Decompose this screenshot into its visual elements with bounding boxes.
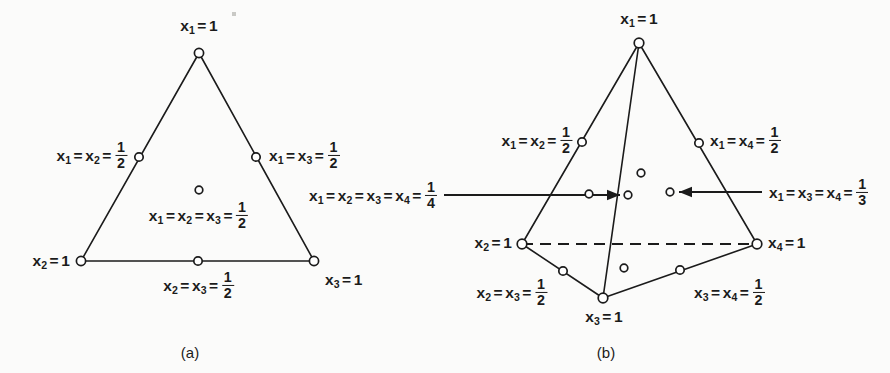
label-x3-eq-1: x3=1: [585, 309, 622, 327]
label-x2-x3-half: x2=x3=12: [163, 270, 235, 300]
interior-face-left: [585, 190, 593, 198]
label-x1-x2-half: x1=x2=12: [56, 140, 128, 170]
label-x2-x3-half: x2=x3=12: [476, 277, 548, 307]
scan-speck: [232, 12, 236, 16]
panel-a-caption: (a): [181, 344, 199, 361]
scan-artifacts: [232, 12, 236, 16]
interior-face-right: [666, 188, 674, 196]
interior-face-lower: [620, 264, 628, 272]
label-centroid-half: x1=x2=x3=12: [149, 200, 249, 230]
midpoint-x2x3: [194, 257, 202, 265]
label-x4-eq-1: x4=1: [768, 235, 805, 253]
label-x1-x2-half: x1=x2=12: [501, 125, 573, 155]
midpoint-x3x4: [676, 266, 684, 274]
midpoint-x1x4: [695, 139, 703, 147]
arrow-to-face-right-head: [679, 187, 692, 197]
midpoint-x1x3: [252, 153, 260, 161]
label-x3-x4-half: x3=x4=12: [694, 277, 766, 307]
vertex-x3: [309, 256, 318, 265]
label-x3-eq-1: x3=1: [325, 272, 362, 290]
edge-x1-x3: [603, 43, 639, 298]
figure-drawing: [0, 0, 890, 373]
label-x1-eq-1: x1=1: [620, 11, 657, 29]
panel-b-arrows: [444, 187, 762, 200]
midpoint-x1x2: [135, 153, 143, 161]
vertex-x2: [517, 239, 527, 249]
interior-centroid: [624, 191, 632, 199]
label-x1-x4-half: x1=x4=12: [710, 125, 782, 155]
label-centroid-quarter: x1=x2=x3=x4=14: [309, 180, 438, 210]
label-x1-x3-half: x1=x3=12: [269, 140, 341, 170]
figure-container: x1=1x1=x2=12x1=x3=12x1=x2=x3=12x2=1x3=1x…: [0, 0, 890, 373]
interior-face-upper: [637, 169, 645, 177]
label-x2-eq-1: x2=1: [475, 235, 512, 253]
vertex-x1: [634, 38, 644, 48]
midpoint-x1x2: [578, 138, 586, 146]
label-x2-eq-1: x2=1: [33, 253, 70, 271]
label-x1-eq-1: x1=1: [180, 18, 217, 36]
midpoint-x2x3: [559, 267, 567, 275]
panel-b-caption: (b): [597, 344, 615, 361]
interior-centroid: [195, 186, 203, 194]
vertex-x2: [76, 256, 85, 265]
vertex-x1: [194, 48, 203, 57]
label-x1-x3-x4-third: x1=x3=x4=13: [769, 177, 869, 207]
panel-b-nodes: [517, 38, 762, 303]
vertex-x4: [752, 239, 762, 249]
vertex-x3: [598, 293, 608, 303]
